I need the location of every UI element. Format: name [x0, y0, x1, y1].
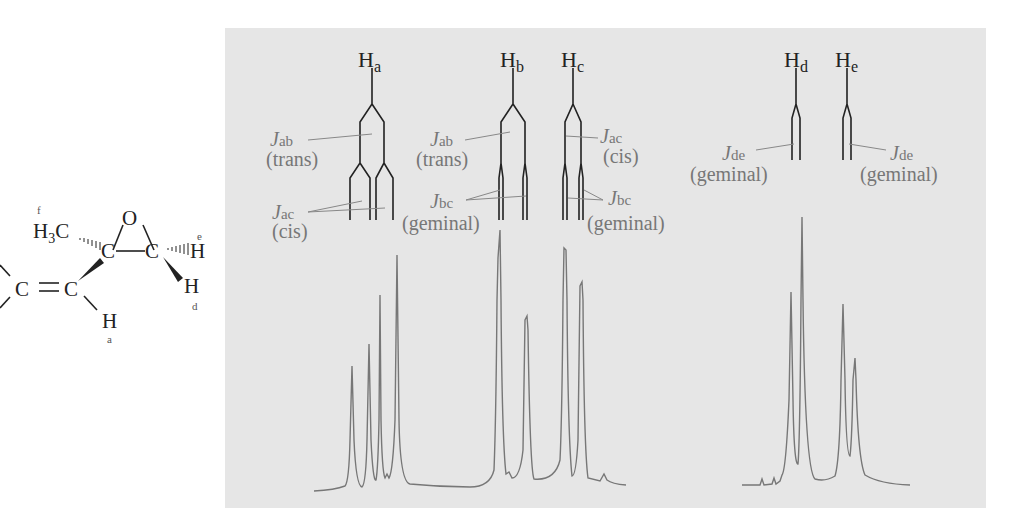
spectrum-trace-right [742, 217, 910, 485]
spectrum-trace-left [314, 230, 626, 491]
atom-c3: C [15, 277, 29, 301]
coupling-label-jde: Jde [890, 142, 913, 164]
coupling-type-geminal: (geminal) [860, 163, 938, 186]
hash-bond-icon [80, 238, 188, 255]
coupling-type-trans: (trans) [266, 148, 318, 171]
coupling-label-jde: Jde [722, 142, 745, 164]
atom-o: O [122, 206, 137, 230]
coupling-label-jbc: Jbc [430, 190, 453, 212]
coupling-type-geminal: (geminal) [587, 212, 665, 235]
coupling-type-cis: (cis) [603, 145, 639, 168]
coupling-label-jab: Jab [430, 128, 453, 150]
label-a: a [107, 333, 112, 345]
label-e: e [197, 230, 202, 242]
coupling-type-trans: (trans) [416, 148, 468, 171]
coupling-type-cis: (cis) [272, 220, 308, 243]
wedge-bond-icon [163, 257, 183, 282]
header-h-a: Ha [358, 47, 381, 75]
header-h-b: Hb [500, 47, 524, 75]
atom-h-a: H [102, 309, 117, 333]
coupling-label-jab: Jab [270, 128, 293, 150]
methyl-group: H3C [33, 219, 69, 246]
atom-c2: C [145, 239, 159, 263]
coupling-type-geminal: (geminal) [690, 163, 768, 186]
coupling-label-jac: Jac [600, 125, 623, 147]
label-d: d [192, 300, 198, 312]
nmr-spectrum [314, 217, 910, 491]
atom-c4: C [64, 277, 78, 301]
atom-h-d: H [184, 274, 199, 298]
atom-c1: C [101, 239, 115, 263]
label-f: f [37, 204, 41, 216]
coupling-label-jbc: Jbc [608, 187, 631, 209]
nmr-figure: O C C C C H H H H3C f e d a Ha Hb Hc Hd … [0, 0, 1011, 532]
coupling-type-geminal: (geminal) [402, 212, 480, 235]
atom-h-e: H [190, 239, 205, 263]
